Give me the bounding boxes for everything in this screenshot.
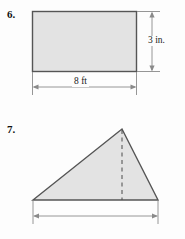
rect-height-arrow-up [149,12,154,18]
rect-width-arrow-right [131,84,137,89]
triangle-shape [33,129,158,200]
rectangle-height-label: 3 in. [146,36,167,46]
triangle-base-arrow-right [152,213,158,218]
triangle-figure [0,114,185,239]
rectangle-width-label: 8 ft [72,77,89,87]
triangle-base-arrow-left [33,213,39,218]
rectangle-shape [33,12,137,72]
worksheet-page: 6. 3 in. 8 ft 7. [0,0,185,239]
rectangle-figure [0,0,185,120]
problem-6: 6. 3 in. 8 ft [0,0,185,120]
rect-height-arrow-down [149,66,154,72]
problem-7: 7. 3 in. 5 yd [0,114,185,239]
rect-width-arrow-left [33,84,39,89]
